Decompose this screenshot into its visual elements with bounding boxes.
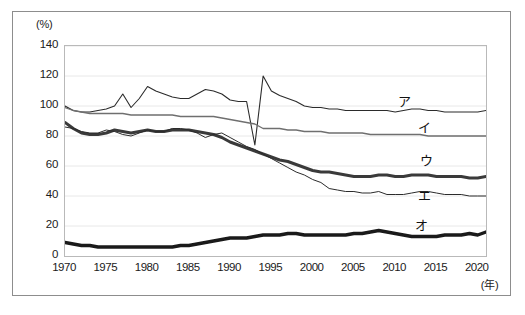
x-axis-tick-1980: 1980 [125, 261, 169, 273]
series-label-ウ: ウ [420, 150, 433, 169]
x-axis-tick-1995: 1995 [248, 261, 292, 273]
x-axis-tick-1975: 1975 [83, 261, 127, 273]
y-axis-unit-label: (%) [36, 18, 53, 30]
y-axis-tick-100: 100 [18, 98, 58, 110]
y-axis-tick-140: 140 [18, 38, 58, 50]
x-axis-tick-2015: 2015 [413, 261, 457, 273]
x-axis-tick-1985: 1985 [166, 261, 210, 273]
y-axis-tick-120: 120 [18, 68, 58, 80]
y-axis-tick-80: 80 [18, 128, 58, 140]
series-label-エ: エ [418, 185, 431, 204]
x-axis-tick-1990: 1990 [207, 261, 251, 273]
x-axis-tick-2000: 2000 [290, 261, 334, 273]
y-axis-tick-20: 20 [18, 218, 58, 230]
x-axis-tick-2005: 2005 [331, 261, 375, 273]
y-axis-tick-60: 60 [18, 158, 58, 170]
chart-figure: (%) 140120100806040200 19701975198019851… [0, 0, 525, 315]
series-label-ア: ア [398, 91, 411, 110]
x-axis-tick-2020: 2020 [455, 261, 499, 273]
y-axis-tick-0: 0 [18, 248, 58, 260]
x-axis-unit-label: (年) [481, 276, 499, 292]
x-axis-tick-1970: 1970 [42, 261, 86, 273]
series-label-オ: オ [415, 215, 428, 234]
series-label-イ: イ [418, 117, 431, 136]
x-axis-tick-2010: 2010 [372, 261, 416, 273]
y-axis-tick-40: 40 [18, 188, 58, 200]
